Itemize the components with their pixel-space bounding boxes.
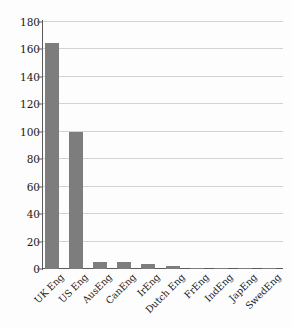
y-axis-tick-label: 40 [0, 209, 40, 220]
y-axis-tick-mark [37, 76, 42, 77]
bar [141, 264, 155, 269]
y-axis-tick-mark [37, 131, 42, 132]
bar [69, 132, 83, 269]
y-axis-tick-mark [37, 186, 42, 187]
gridline [42, 76, 283, 77]
bar [190, 268, 204, 269]
y-axis-tick-label: 20 [0, 236, 40, 247]
y-axis-tick-mark [37, 159, 42, 160]
bar [238, 268, 252, 269]
gridline [42, 21, 283, 22]
bar [214, 268, 228, 269]
bar-chart: 020406080100120140160180 UK EngUS EngAus… [0, 0, 292, 328]
y-axis-tick-label: 140 [0, 72, 40, 83]
y-axis-tick-mark [37, 214, 42, 215]
y-axis-tick-label: 120 [0, 99, 40, 110]
y-axis-tick-mark [37, 22, 42, 23]
bar [262, 268, 276, 269]
gridline [42, 103, 283, 104]
y-axis-spine [42, 20, 43, 270]
y-axis-tick-mark [37, 104, 42, 105]
y-axis-tick-mark [37, 49, 42, 50]
y-axis-tick-label: 100 [0, 127, 40, 138]
gridline [42, 48, 283, 49]
y-axis-tick-label: 180 [0, 17, 40, 28]
y-axis-tick-label: 80 [0, 154, 40, 165]
y-axis-tick-label: 160 [0, 44, 40, 55]
bar [45, 43, 59, 269]
bar [117, 262, 131, 269]
y-axis-tick-mark [37, 241, 42, 242]
y-axis-tick-label: 0 [0, 264, 40, 275]
y-axis-tick-mark [37, 269, 42, 270]
y-axis-tick-label: 60 [0, 181, 40, 192]
bar [166, 266, 180, 269]
bar [93, 262, 107, 269]
